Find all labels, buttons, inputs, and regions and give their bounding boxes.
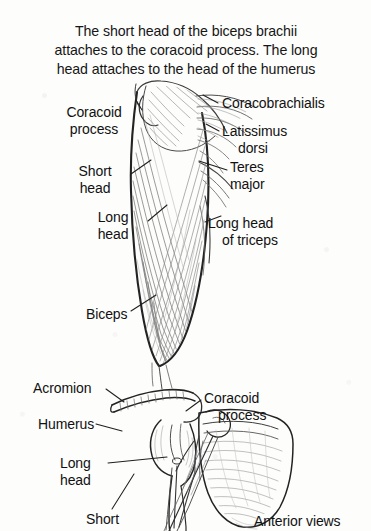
upper-figure-leader-lines: [0, 0, 371, 531]
leader-coracobrachialis: [203, 95, 218, 103]
leader-long-head: [148, 205, 167, 221]
leader-short: [112, 474, 134, 509]
caption-line-2: attaches to the coracoid process. The lo…: [18, 41, 354, 60]
leader-humerus: [96, 424, 122, 431]
label-short-head-upper: Short head: [62, 163, 128, 196]
leader-long-head: [108, 457, 167, 463]
label-teres-major: Teres major: [230, 159, 265, 192]
label-short-lower: Short: [86, 511, 119, 528]
paper-texture: [0, 0, 371, 531]
label-coracobrachialis: Coracobrachialis: [222, 95, 325, 112]
lower-figure-leader-lines: [0, 0, 371, 531]
label-biceps-upper: Biceps: [86, 306, 127, 323]
shoulder-scapula-illustration: [0, 0, 371, 531]
leader-biceps: [131, 295, 156, 311]
label-acromion: Acromion: [33, 380, 91, 397]
label-coracoid-process-lower: Coracoid process: [204, 390, 266, 423]
footer-note-anterior-views: Anterior views: [254, 513, 341, 530]
leader-latissimus-dorsi: [206, 124, 219, 131]
figure-caption: The short head of the biceps brachii att…: [18, 22, 354, 79]
label-long-head-lower: Long head: [60, 455, 91, 488]
label-long-head-of-triceps: Long head of triceps: [208, 215, 278, 248]
anatomy-figure-page: The short head of the biceps brachii att…: [0, 0, 371, 531]
leader-coracoid-process-lower: [186, 400, 201, 411]
caption-line-1: The short head of the biceps brachii: [18, 22, 354, 41]
label-coracoid-process-upper: Coracoid process: [48, 104, 140, 137]
leader-teres-major: [199, 161, 227, 170]
label-humerus: Humerus: [38, 416, 94, 433]
upper-arm-illustration: [0, 0, 371, 531]
label-latissimus-dorsi: Latissimus dorsi: [222, 123, 287, 156]
leader-acromion: [106, 389, 124, 402]
leader-short-head: [131, 160, 151, 174]
label-long-head-upper: Long head: [82, 209, 144, 242]
caption-line-3: head attaches to the head of the humerus: [18, 60, 354, 79]
